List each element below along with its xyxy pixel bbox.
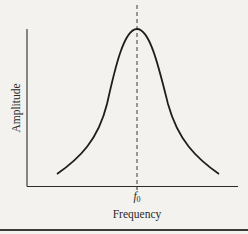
plot-area [0,0,248,234]
resonance-diagram: Amplitude f0 Frequency [0,0,248,234]
f0-tick-label: f0 [133,190,140,204]
resonance-curve [57,29,219,174]
x-axis-label: Frequency [113,208,162,220]
tick-subscript: 0 [137,195,141,204]
bottom-rule [0,229,248,231]
y-axis-label: Amplitude [10,83,22,132]
